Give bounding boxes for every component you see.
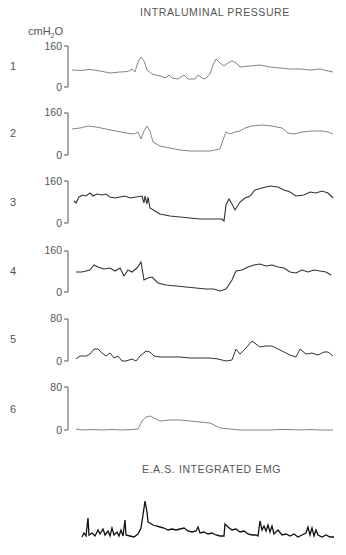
channel-2-trace (72, 125, 333, 151)
channel-1-axis (64, 46, 68, 87)
channel-5-axis (64, 319, 68, 361)
channel-4-trace (76, 262, 331, 291)
channel-4-axis (64, 251, 68, 292)
channel-3-axis (64, 181, 68, 223)
channel-3-trace (74, 186, 333, 221)
emg-trace (82, 501, 334, 537)
channel-1-trace (72, 57, 333, 79)
channel-5-trace (76, 341, 333, 361)
channel-2-axis (64, 113, 68, 155)
channel-6-axis (64, 387, 68, 430)
channel-6-trace (76, 416, 333, 430)
traces-plot (0, 0, 346, 555)
